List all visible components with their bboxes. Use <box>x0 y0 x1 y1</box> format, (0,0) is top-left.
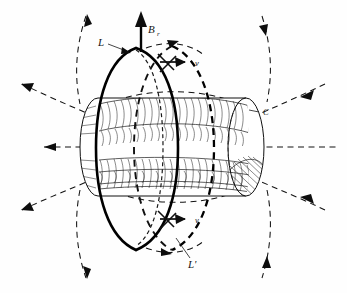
figure-container: B r L L' C v v <box>0 0 347 293</box>
velocity-top-label: v <box>195 58 199 68</box>
solenoid-cylinder <box>80 97 265 200</box>
loop-Lprime-label: L' <box>187 258 197 270</box>
b-field-subscript-label: r <box>157 30 160 38</box>
solenoid-field-diagram: B r L L' C v v <box>0 0 347 293</box>
velocity-bottom-label: v <box>195 215 199 225</box>
loop-L-label: L <box>97 36 104 48</box>
b-field-label: B <box>148 23 155 35</box>
contour-C-label: C <box>263 107 269 117</box>
